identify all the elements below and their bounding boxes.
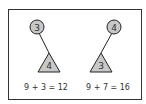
equation-right: 9 + 7 = 16 [86,83,130,92]
edge-right [101,33,112,53]
triangle-label-left: 4 [46,61,52,71]
circle-label-left: 3 [34,23,40,33]
edge-left [39,33,49,53]
triangle-label-right: 3 [98,61,104,71]
circle-label-right: 4 [111,23,117,33]
equation-left: 9 + 3 = 12 [24,83,68,92]
